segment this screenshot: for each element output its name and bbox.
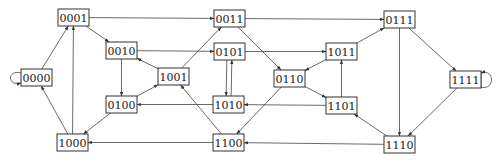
state-node-0101: 0101 bbox=[214, 43, 245, 60]
edge-0001-to-0011 bbox=[89, 18, 214, 19]
state-node-0001: 0001 bbox=[58, 9, 89, 26]
state-label: 1101 bbox=[328, 100, 356, 113]
edge-1110-to-1101 bbox=[354, 114, 387, 136]
edge-1101-to-1010 bbox=[244, 105, 326, 106]
edge-0110-to-1101 bbox=[305, 87, 326, 98]
edge-0100-to-1000 bbox=[83, 113, 110, 134]
edge-0111-to-1111 bbox=[409, 28, 456, 71]
state-node-1010: 1010 bbox=[213, 96, 244, 113]
state-node-1000: 1000 bbox=[57, 134, 88, 151]
edge-1111-to-1110 bbox=[408, 88, 457, 136]
state-label: 0101 bbox=[216, 46, 244, 59]
state-label: 0001 bbox=[60, 12, 88, 25]
state-node-1101: 1101 bbox=[326, 97, 357, 114]
edge-0011-to-0111 bbox=[245, 19, 384, 20]
edge-1000-to-0000 bbox=[41, 86, 68, 134]
state-transition-diagram: 0000000100100011010001010110011110001001… bbox=[0, 0, 500, 166]
edge-0001-to-0010 bbox=[86, 26, 109, 42]
state-label: 0011 bbox=[216, 13, 244, 26]
state-label: 1011 bbox=[328, 46, 356, 59]
edges-layer bbox=[11, 18, 492, 145]
edge-1001-to-0010 bbox=[137, 58, 158, 69]
state-label: 1100 bbox=[215, 137, 243, 150]
self-loop-edge-1111 bbox=[481, 72, 492, 87]
state-label: 1001 bbox=[160, 71, 188, 84]
state-node-1001: 1001 bbox=[158, 68, 189, 85]
edge-0000-to-0001 bbox=[42, 26, 69, 69]
state-node-1110: 1110 bbox=[384, 136, 415, 153]
state-node-1011: 1011 bbox=[326, 43, 357, 60]
state-node-1100: 1100 bbox=[213, 134, 244, 151]
state-label: 1110 bbox=[386, 139, 414, 152]
state-label: 1111 bbox=[452, 74, 480, 87]
state-node-1111: 1111 bbox=[450, 71, 481, 88]
state-label: 1010 bbox=[215, 99, 243, 112]
state-label: 1000 bbox=[59, 137, 87, 150]
edge-0010-to-0101 bbox=[137, 51, 214, 52]
state-node-0011: 0011 bbox=[214, 10, 245, 27]
state-node-0000: 0000 bbox=[21, 69, 52, 86]
state-label: 0100 bbox=[108, 99, 136, 112]
state-node-0110: 0110 bbox=[274, 70, 305, 87]
edge-1110-to-1100 bbox=[244, 143, 384, 145]
edge-0101-to-1010 bbox=[226, 60, 227, 96]
state-node-0100: 0100 bbox=[106, 96, 137, 113]
edge-1011-to-0111 bbox=[357, 28, 384, 43]
edge-1011-to-0110 bbox=[305, 60, 326, 71]
edge-0100-to-1001 bbox=[137, 85, 158, 96]
edge-1010-to-0101 bbox=[231, 60, 232, 96]
edge-1000-to-0001 bbox=[73, 26, 74, 134]
self-loop-edge-0000 bbox=[11, 72, 22, 83]
state-label: 0110 bbox=[276, 73, 304, 86]
state-label: 0010 bbox=[108, 45, 136, 58]
state-label: 0000 bbox=[23, 72, 51, 85]
state-node-0010: 0010 bbox=[106, 42, 137, 59]
state-node-0111: 0111 bbox=[384, 11, 415, 28]
state-label: 0111 bbox=[386, 14, 414, 27]
